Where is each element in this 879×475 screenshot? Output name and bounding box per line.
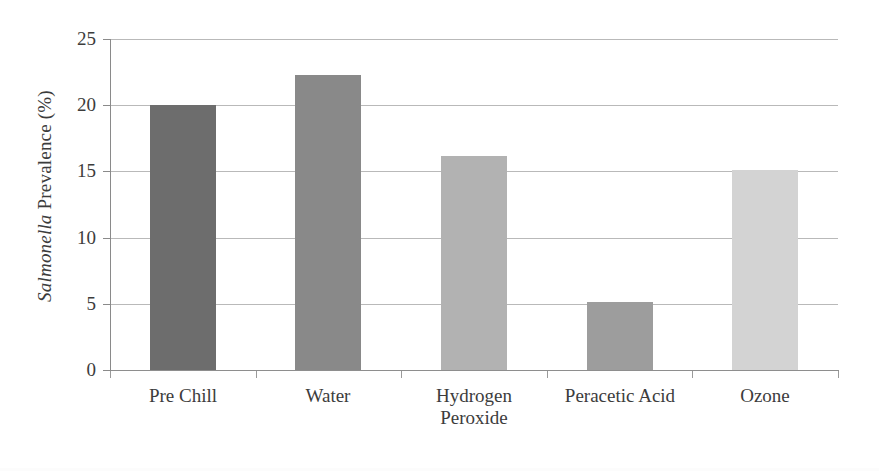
y-axis-title-italic: Salmonella xyxy=(34,214,55,302)
y-tick-mark xyxy=(103,304,111,305)
plot-area xyxy=(110,39,838,370)
bar-chart-figure: Salmonella Prevalence (%) 0510152025Pre … xyxy=(0,0,879,475)
x-tick-label: Peracetic Acid xyxy=(547,385,693,407)
x-tick-label-line: Ozone xyxy=(740,385,790,406)
bar-ozone xyxy=(732,170,798,370)
x-tick-label-line: Water xyxy=(306,385,351,406)
y-tick-mark xyxy=(103,238,111,239)
x-tick-label: Ozone xyxy=(692,385,838,407)
bar-peracetic-acid xyxy=(587,302,653,370)
x-tick-mark xyxy=(256,371,257,378)
x-tick-label-line: Hydrogen xyxy=(436,385,512,406)
y-axis-title: Salmonella Prevalence (%) xyxy=(34,31,56,361)
x-tick-mark xyxy=(692,371,693,378)
y-tick-mark xyxy=(103,105,111,106)
gridline xyxy=(110,370,838,371)
y-tick-label: 20 xyxy=(56,95,96,114)
x-tick-label-line: Peroxide xyxy=(401,407,547,429)
x-tick-mark xyxy=(110,371,111,378)
x-tick-mark xyxy=(401,371,402,378)
y-tick-label: 25 xyxy=(56,29,96,48)
bar-hydrogen-peroxide xyxy=(441,156,507,370)
y-tick-label: 0 xyxy=(56,360,96,379)
y-tick-label: 15 xyxy=(56,161,96,180)
bar-water xyxy=(295,75,361,370)
x-tick-label-line: Pre Chill xyxy=(149,385,217,406)
bar-pre-chill xyxy=(150,105,216,370)
y-tick-mark xyxy=(103,39,111,40)
y-tick-label: 5 xyxy=(56,294,96,313)
y-tick-mark xyxy=(103,171,111,172)
scan-artifact xyxy=(0,468,879,471)
y-tick-label: 10 xyxy=(56,228,96,247)
y-axis-title-roman: Prevalence (%) xyxy=(34,90,55,214)
x-tick-label: HydrogenPeroxide xyxy=(401,385,547,429)
x-tick-mark xyxy=(838,371,839,378)
x-tick-label: Water xyxy=(255,385,401,407)
gridline xyxy=(110,39,838,40)
gridline xyxy=(110,105,838,106)
x-tick-label-line: Peracetic Acid xyxy=(565,385,675,406)
x-tick-mark xyxy=(547,371,548,378)
x-tick-label: Pre Chill xyxy=(110,385,256,407)
